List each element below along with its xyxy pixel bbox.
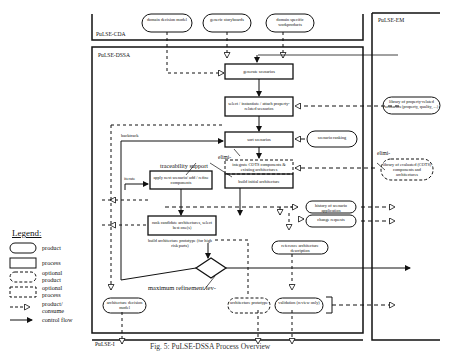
- region-label-cda: PuLSE-CDA: [96, 31, 126, 37]
- product-validation: validation (review only): [276, 300, 322, 305]
- legend-control-flow: control flow: [42, 317, 72, 324]
- label-backtrack: backtrack: [121, 133, 139, 139]
- process-apply-next-scenario: apply next scenario/ add / refine compon…: [150, 175, 212, 185]
- process-select-instantiate: select / instantiate / attach property-r…: [225, 101, 293, 111]
- product-library-property-scenarios: library of property-related scenarios (p…: [384, 99, 439, 109]
- label-elimi-1: elimi-: [218, 154, 231, 160]
- process-rank-candidate: rank candidate architectures, select bes…: [148, 220, 216, 230]
- process-integrate-cots: integrate COTS components & existing arc…: [225, 162, 293, 172]
- legend-optional-product: optional product: [42, 270, 70, 283]
- product-library-cots: library of evaluated (COTS) components a…: [382, 162, 432, 177]
- process-generate-scenarios: generate scenarios: [225, 69, 293, 74]
- region-dssa-border: [92, 47, 363, 333]
- product-history-scenario: history of scenario application: [307, 203, 355, 213]
- label-maximum-refinement: maximum refinement lev-: [148, 285, 216, 291]
- label-traceability-support: traceability support: [160, 163, 208, 169]
- product-scenario-ranking: scenario ranking: [308, 135, 356, 140]
- process-build-initial-architecture: build initial architecture: [225, 179, 293, 184]
- label-iterate: iterate: [124, 176, 135, 182]
- legend-process: process: [42, 260, 61, 267]
- legend-optional-process: optional process: [42, 285, 70, 298]
- product-domain-decision-model: domain decision model: [143, 17, 191, 22]
- label-elimi-2: elimi-: [377, 150, 390, 156]
- region-label-i: PuLSE-I: [95, 341, 115, 347]
- legend-product: product: [42, 245, 61, 252]
- legend-produce-consume: product/ consume: [42, 301, 72, 314]
- region-label-em: PuLSE-EM: [378, 17, 404, 23]
- product-architecture-decision-model: architecture decision model: [104, 300, 145, 310]
- region-label-dssa: PuLSE-DSSA: [98, 52, 130, 58]
- process-build-prototype: build architecture prototype (for high r…: [146, 238, 214, 248]
- product-generic-storyboards: generic storyboards: [204, 17, 250, 22]
- product-architecture-prototype: architecture prototype: [229, 300, 269, 305]
- product-reference-architecture: reference architecture description: [273, 243, 327, 253]
- product-change-requests: change requests: [307, 217, 355, 222]
- legend-title: Legend:: [12, 228, 42, 238]
- process-sort-scenarios: sort scenarios: [225, 137, 293, 142]
- product-domain-specific-workproducts: domain specific workproducts: [267, 17, 313, 27]
- figure-caption: Fig. 5: PuLSE-DSSA Process Overview: [150, 342, 270, 351]
